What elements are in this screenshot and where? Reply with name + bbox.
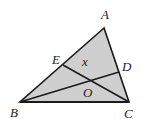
label-d: D (121, 59, 132, 74)
label-c: C (124, 106, 133, 119)
label-a: A (100, 7, 109, 22)
label-b: B (10, 105, 18, 119)
label-e: E (51, 52, 60, 67)
triangle-abc (20, 28, 129, 102)
triangle-diagram: A B C D E O x (0, 0, 143, 119)
label-o: O (83, 85, 93, 100)
label-x: x (81, 54, 88, 69)
